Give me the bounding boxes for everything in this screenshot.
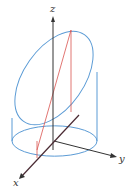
z-axis-label: z — [49, 3, 56, 14]
red-slant-line — [37, 30, 71, 150]
y-axis-label: y — [118, 153, 125, 164]
cylinder-diagram: z y x — [0, 0, 133, 194]
y-axis — [54, 141, 113, 156]
cylinder-base-back — [12, 126, 97, 141]
y-axis-arrow-icon — [110, 153, 117, 158]
z-axis-arrow-icon — [51, 16, 55, 22]
x-axis-label: x — [13, 177, 19, 188]
slanted-ellipse — [0, 17, 109, 138]
